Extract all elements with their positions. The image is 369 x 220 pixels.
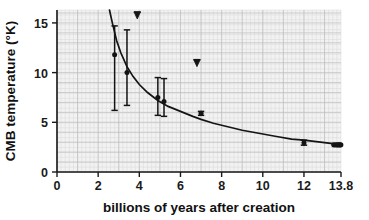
y-tick-label: 15 (34, 17, 48, 31)
x-axis-title: billions of years after creation (103, 200, 295, 215)
x-tick-label: 12 (297, 179, 311, 193)
x-tick-label: 0 (54, 179, 61, 193)
x-tick-label: 8 (218, 179, 225, 193)
x-tick-label: 13.8 (329, 179, 353, 193)
y-axis-title: CMB temperature (°K) (3, 21, 18, 161)
y-tick-label: 10 (34, 67, 48, 81)
x-tick-label: 10 (256, 179, 270, 193)
x-tick-label: 4 (136, 179, 143, 193)
local-measurement-points (331, 142, 343, 147)
data-point (162, 99, 167, 104)
x-tick-label: 6 (177, 179, 184, 193)
y-tick-label: 5 (41, 116, 48, 130)
data-point (199, 111, 204, 116)
y-tick-label: 0 (41, 166, 48, 180)
plot-area (57, 10, 341, 172)
data-point (301, 140, 306, 145)
data-point (112, 52, 117, 57)
x-tick-label: 2 (95, 179, 102, 193)
data-point (124, 70, 129, 75)
cmb-temperature-chart: 02468101213.8 051015 billions of years a… (0, 0, 369, 220)
data-point (338, 142, 343, 147)
data-point (155, 95, 160, 100)
chart-svg: 02468101213.8 051015 billions of years a… (0, 0, 369, 220)
